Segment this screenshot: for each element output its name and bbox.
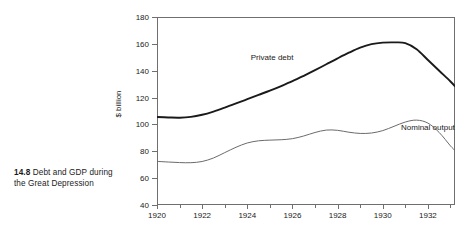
figure-caption: 14.8 Debt and GDP during the Great Depre… xyxy=(14,167,118,189)
figure-container: 14.8 Debt and GDP during the Great Depre… xyxy=(0,0,470,236)
plot-area: 406080100120140160180 192019221924192619… xyxy=(157,17,455,205)
x-tick-label: 1930 xyxy=(374,211,392,220)
x-tick-label: 1920 xyxy=(148,211,166,220)
y-tick-label: 120 xyxy=(136,93,149,102)
x-tick-label: 1928 xyxy=(329,211,347,220)
series-line-private-debt xyxy=(157,42,455,117)
series-label-nominal-output: Nominal output xyxy=(401,123,455,132)
y-axis-title: $ billion xyxy=(114,90,123,117)
x-tick-mark xyxy=(383,205,384,209)
y-tick-label: 60 xyxy=(140,174,149,183)
x-tick-mark-minor xyxy=(450,205,451,208)
y-tick-label: 80 xyxy=(140,147,149,156)
x-tick-label: 1924 xyxy=(238,211,256,220)
x-tick-mark-minor xyxy=(315,205,316,208)
y-tick-label: 140 xyxy=(136,66,149,75)
y-tick-label: 160 xyxy=(136,39,149,48)
x-tick-mark-minor xyxy=(270,205,271,208)
x-tick-mark xyxy=(428,205,429,209)
y-tick-label: 100 xyxy=(136,120,149,129)
x-tick-mark-minor xyxy=(180,205,181,208)
x-tick-mark-minor xyxy=(360,205,361,208)
x-tick-mark xyxy=(157,205,158,209)
x-tick-label: 1932 xyxy=(419,211,437,220)
series-label-private-debt: Private debt xyxy=(251,53,294,62)
series-lines xyxy=(157,17,455,205)
x-tick-mark xyxy=(202,205,203,209)
x-tick-mark xyxy=(292,205,293,209)
x-tick-mark-minor xyxy=(225,205,226,208)
x-tick-label: 1922 xyxy=(193,211,211,220)
x-tick-mark xyxy=(338,205,339,209)
y-tick-label: 40 xyxy=(140,201,149,210)
x-tick-mark xyxy=(247,205,248,209)
x-tick-mark-minor xyxy=(405,205,406,208)
figure-number: 14.8 xyxy=(14,168,30,177)
y-tick-label: 180 xyxy=(136,13,149,22)
x-tick-label: 1926 xyxy=(284,211,302,220)
